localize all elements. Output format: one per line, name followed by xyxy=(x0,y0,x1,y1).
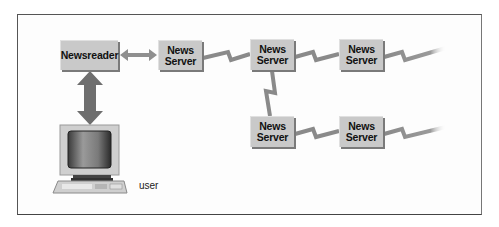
computer-icon xyxy=(53,125,127,193)
news-server-label-line2: Server xyxy=(165,56,197,67)
newsreader-label: Newsreader xyxy=(61,50,119,61)
link-ns2-ns4 xyxy=(266,71,275,116)
news-server-label-line1: News xyxy=(165,45,197,56)
news-server-label-line2: Server xyxy=(257,55,289,66)
link-ns2-ns3 xyxy=(295,52,339,60)
news-server-label-line2: Server xyxy=(257,132,289,143)
news-server-label-line2: Server xyxy=(346,55,378,66)
news-server-box-3: News Server xyxy=(339,39,383,70)
news-server-box-2: News Server xyxy=(250,39,294,70)
news-server-box-4: News Server xyxy=(250,116,294,147)
double-arrow-horizontal xyxy=(120,49,157,61)
link-ns5-out xyxy=(384,127,446,137)
news-server-label-line2: Server xyxy=(346,132,378,143)
link-ns4-ns5 xyxy=(295,129,339,137)
double-arrow-vertical xyxy=(77,71,103,125)
newsreader-box: Newsreader xyxy=(60,40,118,70)
user-label: user xyxy=(139,180,158,191)
link-ns3-out xyxy=(384,48,446,60)
news-server-box-5: News Server xyxy=(339,116,383,147)
link-ns1-ns2 xyxy=(203,52,250,60)
network-links xyxy=(0,0,499,227)
news-server-box-1: News Server xyxy=(158,40,202,70)
